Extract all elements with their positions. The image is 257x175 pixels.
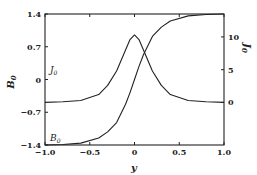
y-axis-right-label: J0 xyxy=(240,41,253,53)
x-tick-label: 1.0 xyxy=(217,147,231,157)
y-left-tick-label: 1.4 xyxy=(27,9,41,19)
y-left-tick-label: −0.7 xyxy=(20,107,41,117)
j0-curve-label: J0 xyxy=(48,65,58,76)
y-right-tick-label: 0 xyxy=(228,97,234,107)
b0-curve-label: B0 xyxy=(49,133,61,144)
x-axis-label: y xyxy=(130,162,138,173)
y-left-tick-label: 0.7 xyxy=(27,42,41,52)
y-left-tick-label: 0 xyxy=(35,75,41,85)
curves xyxy=(45,14,224,145)
y-left-tick-label: −1.4 xyxy=(20,140,41,150)
x-tick-label: 0.5 xyxy=(172,147,186,157)
x-tick-label: −0.5 xyxy=(79,147,100,157)
x-tick-label: 0 xyxy=(132,147,138,157)
y-right-tick-label: 10 xyxy=(228,32,240,42)
chart: −1.0−0.500.51.0−1.4−0.700.71.40510 y B0 … xyxy=(0,0,257,175)
j0-curve xyxy=(45,35,224,102)
y-axis-left-label: B0 xyxy=(5,75,18,89)
b0-curve xyxy=(45,14,224,145)
y-right-tick-label: 5 xyxy=(228,65,234,75)
